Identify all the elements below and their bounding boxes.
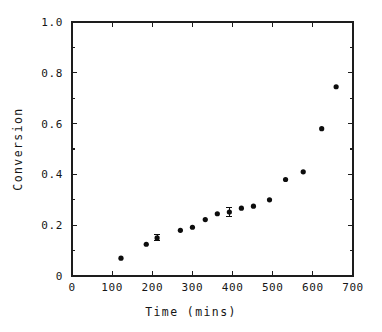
x-tick-label: 300 — [182, 281, 204, 294]
data-point — [178, 228, 183, 233]
data-series-conversion — [118, 84, 338, 261]
data-point — [239, 206, 244, 211]
x-tick-label: 200 — [141, 281, 163, 294]
data-point — [301, 169, 306, 174]
data-point — [319, 126, 324, 131]
data-point — [155, 235, 160, 240]
x-axis-ticks — [72, 22, 353, 276]
y-tick-label: 0.6 — [41, 118, 63, 131]
x-axis-title: Time (mins) — [145, 305, 237, 319]
y-tick-label: 0 — [56, 270, 63, 283]
data-point — [144, 242, 149, 247]
y-axis-tick-labels: 00.20.40.60.81.0 — [41, 16, 63, 283]
x-tick-label: 700 — [342, 281, 364, 294]
data-point — [227, 209, 232, 214]
x-tick-label: 500 — [262, 281, 284, 294]
data-point — [215, 211, 220, 216]
y-tick-label: 0.8 — [41, 67, 63, 80]
data-point — [267, 197, 272, 202]
y-tick-label: 1.0 — [41, 16, 63, 29]
data-point — [334, 84, 339, 89]
data-point — [251, 204, 256, 209]
y-axis-title: Conversion — [11, 107, 25, 190]
scatter-plot: 0100200300400500600700 00.20.40.60.81.0 … — [0, 0, 382, 332]
data-point — [203, 217, 208, 222]
x-tick-label: 100 — [101, 281, 123, 294]
x-tick-label: 0 — [68, 281, 75, 294]
x-tick-label: 600 — [302, 281, 324, 294]
data-point — [283, 177, 288, 182]
x-axis-tick-labels: 0100200300400500600700 — [68, 281, 363, 294]
figure-canvas: 0100200300400500600700 00.20.40.60.81.0 … — [0, 0, 382, 332]
x-tick-label: 400 — [222, 281, 244, 294]
data-point — [118, 256, 123, 261]
axes-frame — [72, 22, 353, 276]
data-point — [190, 225, 195, 230]
y-tick-label: 0.4 — [41, 168, 63, 181]
y-tick-label: 0.2 — [41, 219, 63, 232]
y-axis-ticks — [72, 22, 353, 276]
